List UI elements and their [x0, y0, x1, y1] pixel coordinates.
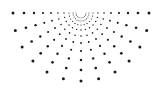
dot — [46, 70, 49, 73]
dot — [60, 24, 62, 26]
dot — [80, 50, 82, 52]
dot — [62, 77, 65, 80]
dot — [61, 45, 63, 47]
dot — [77, 19, 78, 20]
dot — [94, 67, 97, 70]
dot — [120, 52, 123, 55]
dot — [82, 17, 83, 18]
dot — [51, 61, 54, 64]
dot — [65, 67, 68, 70]
dot — [129, 40, 132, 43]
dot — [74, 17, 75, 18]
dot — [90, 49, 92, 51]
dot — [87, 17, 88, 18]
dot — [80, 24, 81, 25]
dot — [47, 45, 49, 47]
dot — [89, 13, 90, 14]
dot — [117, 22, 119, 24]
dot — [89, 27, 90, 28]
dot — [76, 29, 77, 30]
dot — [77, 16, 78, 17]
dot — [106, 27, 108, 29]
dot — [113, 45, 115, 47]
dot — [135, 26, 138, 29]
dot — [54, 27, 56, 29]
dot — [75, 18, 76, 19]
dot — [80, 59, 82, 61]
dot — [23, 12, 26, 15]
dot — [128, 60, 131, 63]
dot — [85, 19, 86, 20]
dot — [103, 12, 105, 14]
dot — [63, 12, 64, 13]
dot — [80, 42, 82, 44]
sunburst-dots-graphic — [0, 0, 162, 94]
dot — [83, 20, 84, 21]
dot — [58, 18, 60, 20]
dot — [76, 14, 77, 15]
dot — [95, 38, 97, 40]
dot — [73, 13, 74, 14]
dot — [88, 41, 90, 43]
dot — [96, 28, 98, 30]
dot — [68, 12, 69, 13]
dot — [50, 12, 52, 14]
dot — [118, 12, 120, 14]
dot — [137, 12, 140, 15]
dot — [21, 46, 24, 49]
dot — [70, 49, 72, 51]
dot — [110, 12, 112, 14]
dot — [57, 12, 59, 14]
dot — [76, 13, 77, 14]
dot — [72, 27, 73, 28]
dot — [39, 52, 42, 55]
dot — [86, 23, 87, 24]
dot — [78, 17, 79, 18]
dot — [148, 12, 151, 15]
dot — [33, 12, 35, 14]
dot — [113, 31, 115, 33]
dot — [72, 21, 73, 22]
dot — [83, 17, 84, 18]
dot — [69, 32, 71, 34]
dot — [89, 21, 90, 22]
dot — [138, 46, 141, 49]
dot — [84, 16, 85, 17]
dot — [79, 17, 80, 18]
dot — [108, 61, 111, 64]
dot — [64, 28, 66, 30]
dot — [97, 77, 100, 80]
dot — [85, 29, 86, 30]
dot — [85, 14, 86, 15]
dot — [64, 17, 65, 18]
dot — [97, 12, 98, 13]
dot — [81, 18, 82, 19]
dot — [12, 12, 15, 15]
dot — [80, 35, 82, 37]
dot — [92, 24, 93, 25]
dot — [43, 22, 45, 24]
dot — [95, 21, 96, 22]
dot — [92, 12, 93, 13]
dot — [86, 34, 88, 36]
dot — [100, 24, 102, 26]
dot — [74, 23, 75, 24]
dot — [86, 18, 87, 19]
dot — [56, 53, 58, 55]
dot — [53, 39, 55, 41]
dot — [97, 17, 98, 18]
dot — [103, 53, 105, 55]
dot — [81, 21, 82, 22]
dot — [31, 60, 34, 63]
dot — [30, 40, 33, 43]
dot — [102, 18, 104, 20]
dot — [84, 24, 85, 25]
dot — [125, 24, 127, 26]
dot — [101, 33, 103, 35]
dot — [92, 16, 93, 17]
dot — [86, 13, 87, 14]
dot — [34, 24, 36, 26]
dot — [80, 29, 81, 30]
dot — [107, 39, 109, 41]
dot — [109, 20, 111, 22]
